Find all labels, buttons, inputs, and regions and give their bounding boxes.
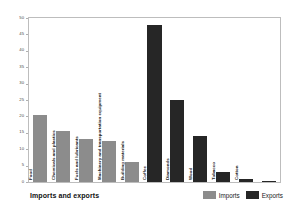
bar-diamonds[interactable] xyxy=(170,100,184,182)
bar-category-label: Fuels and lubricants xyxy=(74,136,79,180)
bar-cotton[interactable] xyxy=(239,179,253,182)
bar-slot: Coffee xyxy=(147,18,161,182)
bar-slot: Fuels and lubricants xyxy=(79,18,93,182)
bar-machinery-and-transportation-equipment[interactable] xyxy=(102,141,116,182)
y-axis-tick-label: 15 xyxy=(19,129,24,134)
y-axis-tick-mark xyxy=(26,100,28,101)
legend-item-imports: Imports xyxy=(203,191,240,199)
y-axis-tick-label: 50 xyxy=(19,15,24,20)
legend-swatch-imports xyxy=(203,191,216,199)
bar-slot xyxy=(262,18,276,182)
bar-category-label: Diamonds xyxy=(165,158,170,180)
chart-page: Percentage of total 05101520253035404550… xyxy=(0,0,291,212)
chart-legend: Imports Exports xyxy=(203,191,283,199)
bar-category-label: Cotton xyxy=(234,166,239,180)
bar-category-label: Building materials xyxy=(120,141,125,180)
bar-building-materials[interactable] xyxy=(125,162,139,182)
y-axis-tick-mark xyxy=(26,166,28,167)
y-axis-tick-mark xyxy=(26,149,28,150)
y-axis-tick-mark xyxy=(26,34,28,35)
bar-slot: Machinery and transportation equipment xyxy=(102,18,116,182)
y-axis-tick-mark xyxy=(26,116,28,117)
bar-category-label: Chemicals and plastics xyxy=(51,130,56,180)
legend-item-exports: Exports xyxy=(246,191,283,199)
bar-slot: Building materials xyxy=(125,18,139,182)
y-axis-tick-mark xyxy=(26,133,28,134)
bar-food[interactable] xyxy=(33,115,47,182)
bar-category-label: Wood xyxy=(188,168,193,180)
y-axis-title: Percentage of total xyxy=(0,208,8,212)
bar-fuels-and-lubricants[interactable] xyxy=(79,139,93,182)
bar-slot: Food xyxy=(33,18,47,182)
y-axis-tick-label: 0 xyxy=(22,179,24,184)
y-axis-tick-mark xyxy=(26,18,28,19)
bar-category-label: Food xyxy=(28,169,33,180)
bar-slot: Chemicals and plastics xyxy=(56,18,70,182)
y-axis-tick-label: 20 xyxy=(19,113,24,118)
bar-category-label: Tobacco xyxy=(211,162,216,180)
chart-title: Imports and exports xyxy=(30,192,99,199)
y-axis-tick-mark xyxy=(26,84,28,85)
y-axis-tick-mark xyxy=(26,67,28,68)
bar-slot: Wood xyxy=(193,18,207,182)
bar-tobacco[interactable] xyxy=(216,172,230,182)
legend-label-imports: Imports xyxy=(219,192,240,199)
bar-coffee[interactable] xyxy=(147,25,161,182)
bar-category-label: Machinery and transportation equipment xyxy=(97,93,102,180)
legend-label-exports: Exports xyxy=(262,192,283,199)
bar-unlabeled[interactable] xyxy=(262,181,276,182)
y-axis-tick-label: 5 xyxy=(22,162,24,167)
y-axis-tick-label: 35 xyxy=(19,64,24,69)
bar-chemicals-and-plastics[interactable] xyxy=(56,131,70,182)
legend-swatch-exports xyxy=(246,191,259,199)
y-axis-tick-label: 30 xyxy=(19,80,24,85)
bar-category-label: Coffee xyxy=(142,166,147,180)
bar-wood[interactable] xyxy=(193,136,207,182)
bar-slot: Tobacco xyxy=(216,18,230,182)
y-axis-tick-label: 40 xyxy=(19,47,24,52)
bar-series-container: FoodChemicals and plasticsFuels and lubr… xyxy=(29,18,280,182)
bar-slot: Cotton xyxy=(239,18,253,182)
bar-slot: Diamonds xyxy=(170,18,184,182)
y-axis-tick-label: 10 xyxy=(19,146,24,151)
y-axis-tick-mark xyxy=(26,51,28,52)
y-axis-tick-label: 45 xyxy=(19,31,24,36)
y-axis-tick-mark xyxy=(26,182,28,183)
y-axis-tick-label: 25 xyxy=(19,97,24,102)
